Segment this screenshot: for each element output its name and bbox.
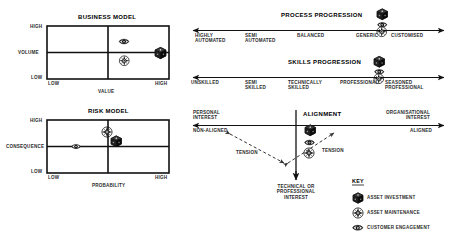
process-progression-markers bbox=[377, 9, 388, 37]
alignment-right-axis-label: ALIGNED bbox=[410, 128, 432, 133]
customer-engagement-icon bbox=[353, 225, 363, 230]
process-scale-item-4: CUSTOMISED bbox=[391, 33, 423, 38]
asset-investment-icon bbox=[353, 193, 363, 203]
risk-model-x-axis-label: PROBABILITY bbox=[92, 183, 125, 188]
asset-investment-icon bbox=[377, 9, 387, 20]
process-progression-title: PROCESS PROGRESSION bbox=[281, 12, 362, 18]
key-item-label: ASSET MAINTENANCE bbox=[367, 210, 420, 215]
diagram-canvas: BUSINESS MODEL HIGH VOLUME LOW LOW HIGH … bbox=[0, 0, 451, 241]
customer-engagement-icon bbox=[72, 144, 81, 148]
business-model-grid bbox=[47, 26, 169, 79]
process-scale-item-1: SEMI AUTOMATED bbox=[245, 33, 276, 44]
alignment-tension-left-label: TENSION bbox=[236, 150, 258, 155]
customer-engagement-icon bbox=[375, 70, 384, 74]
process-scale-item-2: BALANCED bbox=[297, 33, 324, 38]
skills-scale-item-3: PROFESSIONAL bbox=[340, 80, 378, 85]
business-model-x-high: HIGH bbox=[155, 81, 167, 86]
business-model-title: BUSINESS MODEL bbox=[78, 14, 136, 20]
customer-engagement-icon bbox=[119, 39, 129, 44]
skills-scale-item-4: SEASONED PROFESSIONAL bbox=[385, 80, 423, 91]
key-item-asset-maintenance: ASSET MAINTENANCE bbox=[367, 210, 420, 215]
alignment-right-top-label: ORGANISATIONAL INTEREST bbox=[386, 110, 430, 121]
alignment-bottom-label: TECHNICAL OR PROFESSIONAL INTEREST bbox=[272, 184, 320, 200]
key-item-asset-investment: ASSET INVESTMENT bbox=[367, 195, 415, 200]
alignment-left-axis-label: NON-ALIGNED bbox=[193, 128, 227, 133]
process-scale-item-0: HIGHLY AUTOMATED bbox=[195, 33, 226, 44]
risk-model-y-low: LOW bbox=[31, 169, 42, 174]
alignment-markers bbox=[304, 125, 316, 158]
key-title: KEY bbox=[352, 178, 364, 184]
business-model-x-low: LOW bbox=[48, 81, 59, 86]
asset-maintenance-icon bbox=[304, 148, 315, 159]
key-icons bbox=[353, 193, 364, 230]
alignment-title: ALIGNMENT bbox=[303, 111, 341, 117]
asset-investment-icon bbox=[111, 136, 121, 147]
asset-investment-icon bbox=[374, 56, 384, 67]
risk-model-y-high: HIGH bbox=[30, 118, 42, 123]
key-item-label: CUSTOMER ENGAGEMENT bbox=[367, 225, 430, 230]
asset-maintenance-icon bbox=[119, 56, 129, 66]
risk-model-y-axis-label: CONSEQUENCE bbox=[6, 144, 44, 149]
key-item-customer-engagement: CUSTOMER ENGAGEMENT bbox=[367, 225, 430, 230]
asset-maintenance-icon bbox=[102, 127, 113, 138]
business-model-y-high: HIGH bbox=[30, 24, 42, 29]
skills-progression-title: SKILLS PROGRESSION bbox=[288, 59, 361, 65]
business-model-y-axis-label: VOLUME bbox=[18, 50, 39, 55]
risk-model-title: RISK MODEL bbox=[88, 108, 129, 114]
asset-investment-icon bbox=[155, 47, 166, 58]
alignment-tension-right-label: TENSION bbox=[322, 148, 344, 153]
customer-engagement-icon bbox=[378, 23, 387, 27]
skills-scale-item-2: TECHNICALLY SKILLED bbox=[288, 80, 322, 91]
customer-engagement-icon bbox=[305, 140, 315, 145]
asset-investment-icon bbox=[305, 125, 315, 136]
risk-model-markers bbox=[72, 127, 122, 149]
risk-model-x-high: HIGH bbox=[155, 175, 167, 180]
risk-model-grid bbox=[47, 120, 169, 173]
skills-scale-item-0: UNSKILLED bbox=[191, 80, 219, 85]
risk-model-x-low: LOW bbox=[48, 175, 59, 180]
tension-arrows bbox=[230, 133, 334, 163]
alignment-left-top-label: PERSONAL INTEREST bbox=[193, 110, 220, 121]
process-scale-item-3: GENERIC bbox=[356, 33, 378, 38]
skills-scale-item-1: SEMI SKILLED bbox=[245, 80, 266, 91]
business-model-y-low: LOW bbox=[31, 75, 42, 80]
key-item-label: ASSET INVESTMENT bbox=[367, 195, 415, 200]
asset-maintenance-icon bbox=[353, 208, 364, 219]
business-model-x-axis-label: VALUE bbox=[98, 89, 114, 94]
